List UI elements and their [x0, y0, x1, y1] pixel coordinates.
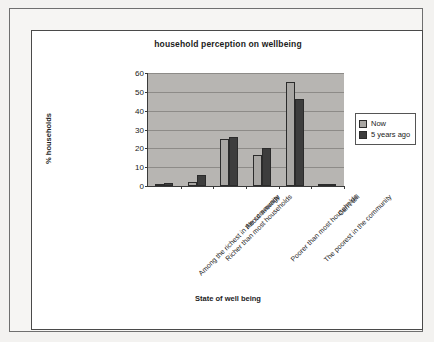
plot-area: 0102030405060 — [147, 73, 344, 187]
bar-group — [279, 73, 312, 186]
x-tick-mark — [246, 186, 247, 189]
x-axis-title: State of well being — [32, 294, 424, 303]
y-tick-label: 20 — [135, 144, 144, 153]
bar-now[interactable] — [318, 184, 327, 186]
bar-now[interactable] — [253, 155, 262, 186]
bar-five-years-ago[interactable] — [327, 184, 336, 186]
bar-group — [213, 73, 246, 186]
legend-swatch-icon — [359, 120, 367, 128]
x-tick-mark — [213, 186, 214, 189]
x-tick-label: Among the richest in the community — [197, 193, 281, 277]
legend-label: Now — [371, 119, 386, 128]
y-tick-label: 10 — [135, 163, 144, 172]
scanned-page: household perception on wellbeing % hous… — [0, 0, 434, 342]
bar-five-years-ago[interactable] — [197, 175, 206, 186]
bar-five-years-ago[interactable] — [295, 99, 304, 186]
bar-five-years-ago[interactable] — [262, 148, 271, 186]
bar-now[interactable] — [286, 82, 295, 186]
y-tick-label: 30 — [135, 125, 144, 134]
x-tick-mark — [311, 186, 312, 189]
y-tick-label: 40 — [135, 106, 144, 115]
bar-five-years-ago[interactable] — [164, 183, 173, 186]
bar-now[interactable] — [188, 182, 197, 186]
x-tick-label: Richer than most households — [224, 193, 293, 262]
bar-group — [246, 73, 279, 186]
page-inner-border: household perception on wellbeing % hous… — [9, 8, 423, 332]
bar-five-years-ago[interactable] — [229, 137, 238, 186]
x-tick-label: The poorest in the community — [323, 193, 393, 263]
bar-group — [148, 73, 181, 186]
y-tick-label: 60 — [135, 69, 144, 78]
y-tick-label: 50 — [135, 87, 144, 96]
x-tick-label: Can't tell — [336, 193, 360, 217]
x-tick-mark — [279, 186, 280, 189]
x-tick-mark — [344, 186, 345, 189]
y-tick-label: 0 — [140, 182, 144, 191]
x-tick-mark — [181, 186, 182, 189]
legend-item[interactable]: 5 years ago — [359, 130, 410, 139]
chart-container: household perception on wellbeing % hous… — [31, 30, 423, 330]
chart-title: household perception on wellbeing — [32, 39, 424, 49]
x-tick-label: Poorer than most households — [290, 193, 360, 263]
y-axis-title: % households — [44, 99, 53, 179]
bar-group — [181, 73, 214, 186]
legend-label: 5 years ago — [371, 130, 410, 139]
x-tick-label: About average — [244, 193, 281, 230]
bar-group — [311, 73, 344, 186]
legend-item[interactable]: Now — [359, 119, 410, 128]
y-tick-mark — [145, 186, 148, 187]
chart-legend: Now5 years ago — [355, 113, 416, 145]
bar-now[interactable] — [220, 139, 229, 186]
legend-swatch-icon — [359, 131, 367, 139]
bar-now[interactable] — [155, 184, 164, 186]
